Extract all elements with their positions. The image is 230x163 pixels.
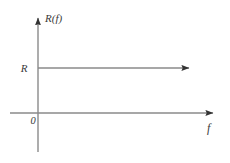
- origin-label: 0: [30, 115, 36, 126]
- figure-container: R(f) R 0 f: [0, 0, 230, 163]
- y-axis-label: R(f): [44, 12, 62, 25]
- x-axis-label: f: [207, 121, 212, 135]
- level-label-r: R: [20, 62, 28, 74]
- plot-canvas: R(f) R 0 f: [0, 0, 230, 163]
